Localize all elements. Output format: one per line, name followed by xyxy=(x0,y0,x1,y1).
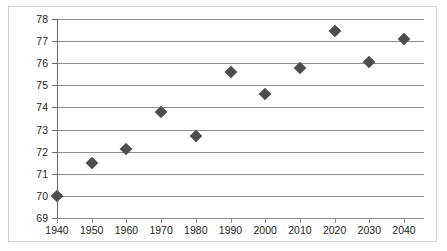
gridline-y-75 xyxy=(57,85,424,86)
gridline-y-73 xyxy=(57,130,424,131)
chart-plot-area xyxy=(57,19,424,218)
gridline-y-78 xyxy=(57,19,424,20)
y-axis-tick-label: 75 xyxy=(36,80,48,91)
x-tick-1960 xyxy=(126,218,127,223)
x-axis-tick-label: 2010 xyxy=(288,225,311,236)
y-axis-tick-label: 69 xyxy=(36,213,48,224)
x-axis-tick-label: 1950 xyxy=(80,225,103,236)
y-axis-tick-label: 73 xyxy=(36,124,48,135)
x-tick-1990 xyxy=(231,218,232,223)
x-tick-2020 xyxy=(335,218,336,223)
x-tick-2040 xyxy=(404,218,405,223)
x-axis-tick-label: 2040 xyxy=(392,225,415,236)
y-axis-tick-label: 76 xyxy=(36,58,48,69)
y-tick-73 xyxy=(52,130,57,131)
x-axis-tick-label: 1980 xyxy=(184,225,207,236)
x-tick-1980 xyxy=(196,218,197,223)
y-axis-tick-label: 70 xyxy=(36,191,48,202)
gridline-y-70 xyxy=(57,196,424,197)
chart-figure: 69707172737475767778 1940195019601970198… xyxy=(0,0,447,251)
y-axis-tick-label: 74 xyxy=(36,102,48,113)
x-tick-1940 xyxy=(57,218,58,223)
y-tick-76 xyxy=(52,63,57,64)
y-tick-77 xyxy=(52,41,57,42)
x-axis-tick-label: 1960 xyxy=(115,225,138,236)
y-tick-71 xyxy=(52,174,57,175)
gridline-y-77 xyxy=(57,41,424,42)
gridline-y-74 xyxy=(57,107,424,108)
x-axis-tick-label: 2030 xyxy=(358,225,381,236)
gridline-y-72 xyxy=(57,152,424,153)
x-axis-tick-label: 2020 xyxy=(323,225,346,236)
x-tick-2030 xyxy=(369,218,370,223)
y-axis-tick-label: 72 xyxy=(36,146,48,157)
x-axis-tick-label: 1970 xyxy=(149,225,172,236)
x-tick-1950 xyxy=(92,218,93,223)
x-tick-2010 xyxy=(300,218,301,223)
y-axis-tick-label: 78 xyxy=(36,14,48,25)
x-tick-1970 xyxy=(161,218,162,223)
x-axis-tick-label: 1990 xyxy=(219,225,242,236)
y-tick-75 xyxy=(52,85,57,86)
y-tick-78 xyxy=(52,19,57,20)
y-axis-tick-label: 77 xyxy=(36,36,48,47)
x-tick-2000 xyxy=(265,218,266,223)
gridline-y-71 xyxy=(57,174,424,175)
y-tick-72 xyxy=(52,152,57,153)
x-axis-tick-label: 1940 xyxy=(45,225,68,236)
y-axis-tick-label: 71 xyxy=(36,169,48,180)
x-axis-tick-label: 2000 xyxy=(254,225,277,236)
y-tick-74 xyxy=(52,107,57,108)
